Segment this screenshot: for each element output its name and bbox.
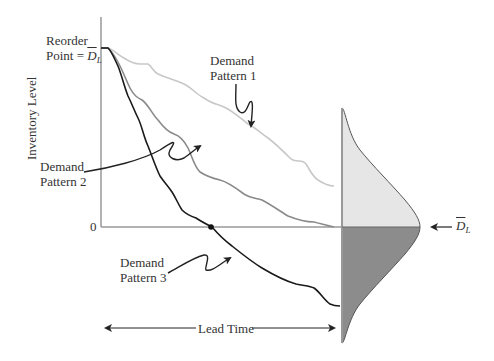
- reorder-point-line2: Point = DL: [46, 48, 102, 68]
- mean-demand-label: DL: [456, 218, 470, 238]
- reorder-point-label: Reorder Point = DL: [46, 33, 102, 68]
- mean-demand-symbol: D: [456, 218, 465, 233]
- stockout-point-marker: [208, 224, 214, 230]
- reorder-point-line1: Reorder: [46, 33, 102, 48]
- inventory-lead-time-diagram: Inventory Level Reorder Point = DL 0 Dem…: [0, 0, 494, 361]
- pattern-1-line1: Demand: [210, 53, 257, 68]
- pattern-3-line1: Demand: [120, 255, 167, 270]
- demand-distribution: [342, 108, 420, 343]
- pattern-3-line2: Pattern 3: [120, 270, 167, 285]
- reorder-point-subscript: L: [97, 55, 102, 65]
- reorder-point-symbol: D: [87, 48, 96, 63]
- pattern-3-pointer-arrow: [168, 255, 230, 273]
- demand-pattern-2-label: Demand Pattern 2: [40, 159, 87, 189]
- distribution-upper-half: [342, 108, 420, 227]
- demand-pattern-3-label: Demand Pattern 3: [120, 255, 167, 285]
- y-axis-label: Inventory Level: [24, 77, 40, 160]
- reorder-point-prefix: Point =: [46, 48, 87, 63]
- pattern-1-pointer-arrow: [236, 84, 253, 126]
- demand-pattern-1-label: Demand Pattern 1: [210, 53, 257, 83]
- pattern-2-line2: Pattern 2: [40, 174, 87, 189]
- mean-demand-subscript: L: [465, 225, 470, 235]
- lead-time-label: Lead Time: [198, 321, 254, 336]
- pattern-2-line1: Demand: [40, 159, 87, 174]
- zero-label: 0: [90, 219, 97, 234]
- distribution-lower-half: [342, 227, 420, 343]
- pattern-1-line2: Pattern 1: [210, 68, 257, 83]
